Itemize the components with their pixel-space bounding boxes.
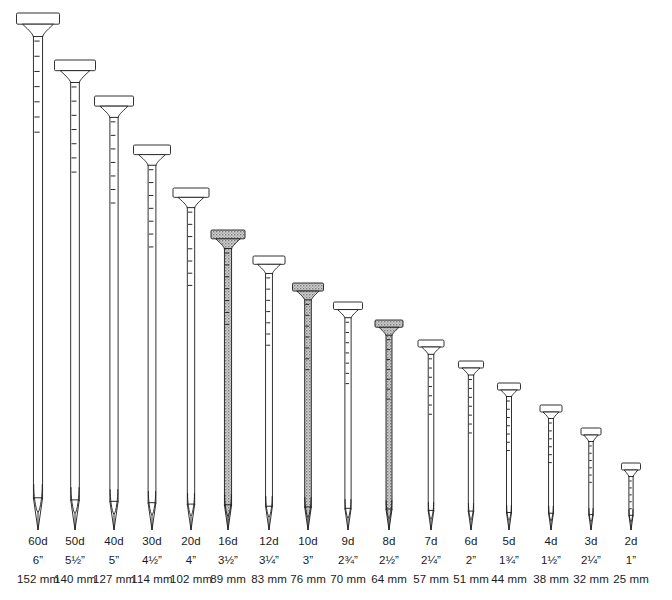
nail-shaft — [468, 375, 473, 512]
millimeters-label-20d: 102 mm — [170, 571, 212, 587]
penny-size-label-16d: 16d — [218, 533, 238, 549]
nail-head — [253, 256, 285, 264]
millimeters-label-30d: 114 mm — [131, 571, 172, 587]
inches-label-7d: 2¼” — [421, 552, 441, 568]
nail-head — [622, 463, 641, 470]
nail-shoulder — [338, 310, 359, 319]
millimeters-label-8d: 64 mm — [371, 571, 407, 587]
nail-5d — [498, 383, 521, 530]
inches-label-10d: 3” — [303, 552, 313, 568]
nail-shaft — [629, 477, 633, 516]
nail-shoulder — [462, 368, 480, 376]
nail-shaft — [148, 165, 156, 503]
nail-shaft — [71, 82, 80, 500]
penny-size-label-8d: 8d — [383, 533, 396, 549]
penny-size-label-row: 60d50d40d30d20d16d12d10d9d8d7d6d5d4d3d2d — [0, 533, 672, 549]
millimeters-label-6d: 51 mm — [453, 571, 489, 587]
penny-size-label-12d: 12d — [259, 533, 279, 549]
penny-size-label-3d: 3d — [585, 533, 598, 549]
nail-10d — [293, 283, 324, 530]
millimeters-label-10d: 76 mm — [290, 571, 326, 587]
inches-label-4d: 1½” — [541, 552, 561, 568]
nail-4d — [540, 405, 562, 530]
nail-shoulder — [624, 470, 638, 477]
nail-2d — [622, 463, 641, 530]
millimeters-label-2d: 25 mm — [613, 571, 649, 587]
inches-label-50d: 5½” — [65, 552, 85, 568]
nail-shoulder — [60, 71, 90, 83]
nail-shoulder — [257, 264, 280, 274]
nail-16d — [211, 230, 245, 530]
nail-shaft — [386, 335, 392, 509]
millimeters-label-40d: 127 mm — [93, 571, 135, 587]
inches-label-6d: 2” — [466, 552, 476, 568]
nail-head — [540, 405, 562, 412]
nail-shoulder — [297, 291, 319, 300]
nail-illustrations — [0, 0, 672, 534]
penny-size-label-10d: 10d — [298, 533, 318, 549]
inches-label-40d: 5” — [109, 552, 119, 568]
nail-8d — [375, 320, 403, 530]
nail-shoulder — [216, 239, 240, 249]
inches-label-9d: 2¾” — [338, 552, 358, 568]
nail-shoulder — [178, 197, 204, 208]
nail-shaft — [589, 442, 593, 516]
penny-size-label-50d: 50d — [65, 533, 85, 549]
nail-60d — [17, 13, 60, 530]
nail-head — [334, 302, 363, 310]
nail-head — [581, 428, 601, 435]
nail-shaft — [224, 249, 231, 506]
nail-20d — [173, 188, 209, 530]
nail-head — [418, 340, 444, 347]
nail-6d — [459, 361, 484, 530]
inches-label-30d: 4½” — [142, 552, 162, 568]
nail-shaft — [428, 354, 434, 511]
millimeters-label-3d: 32 mm — [573, 571, 609, 587]
nail-shoulder — [501, 390, 518, 397]
nail-shoulder — [379, 327, 399, 335]
millimeters-label-row: 152 mm140 mm127 mm114 mm102 mm89 mm83 mm… — [0, 571, 672, 587]
inches-label-row: 6”5½”5”4½”4”3½”3¼”3”2¾”2½”2¼”2”1¾”1½”2¼”… — [0, 552, 672, 568]
nail-shoulder — [422, 347, 441, 355]
inches-label-2d: 1” — [626, 552, 636, 568]
penny-size-label-9d: 9d — [342, 533, 355, 549]
nail-head — [293, 283, 324, 291]
nail-50d — [55, 60, 96, 530]
penny-size-label-6d: 6d — [465, 533, 478, 549]
millimeters-label-60d: 152 mm — [17, 571, 59, 587]
penny-size-label-2d: 2d — [625, 533, 638, 549]
nail-shaft — [187, 208, 194, 505]
penny-size-label-40d: 40d — [104, 533, 124, 549]
millimeters-label-50d: 140 mm — [54, 571, 96, 587]
millimeters-label-5d: 44 mm — [491, 571, 527, 587]
nail-head — [459, 361, 484, 368]
nail-head — [375, 320, 403, 327]
nail-shaft — [266, 273, 273, 506]
nail-head — [17, 13, 60, 24]
nail-group — [17, 13, 641, 530]
nail-shaft — [345, 318, 351, 509]
nail-shoulder — [584, 435, 598, 442]
penny-size-label-20d: 20d — [181, 533, 201, 549]
nail-head — [95, 96, 134, 106]
millimeters-label-4d: 38 mm — [533, 571, 569, 587]
penny-size-label-7d: 7d — [425, 533, 438, 549]
inches-label-3d: 2¼” — [581, 552, 601, 568]
nail-7d — [418, 340, 444, 530]
millimeters-label-12d: 83 mm — [251, 571, 287, 587]
nail-head — [498, 383, 521, 390]
inches-label-12d: 3¼” — [259, 552, 279, 568]
millimeters-label-7d: 57 mm — [413, 571, 449, 587]
nail-shaft — [110, 117, 118, 501]
nail-head — [134, 145, 171, 155]
nail-30d — [134, 145, 171, 530]
millimeters-label-16d: 89 mm — [210, 571, 246, 587]
nail-40d — [95, 96, 134, 530]
penny-size-label-30d: 30d — [142, 533, 162, 549]
inches-label-16d: 3½” — [218, 552, 238, 568]
inches-label-20d: 4” — [186, 552, 196, 568]
nail-size-chart: 60d50d40d30d20d16d12d10d9d8d7d6d5d4d3d2d… — [0, 0, 672, 600]
nail-head — [55, 60, 96, 71]
nail-shoulder — [23, 24, 54, 37]
nail-9d — [334, 302, 363, 530]
